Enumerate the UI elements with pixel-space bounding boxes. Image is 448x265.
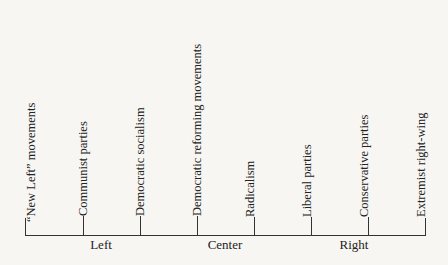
position-label-radicalism: Radicalism xyxy=(244,161,257,217)
position-label-liberal: Liberal parties xyxy=(301,144,314,217)
spectrum-axis-line xyxy=(25,235,425,236)
region-label-right: Right xyxy=(340,238,369,252)
position-label-new-left: “New Left” movements xyxy=(25,103,38,222)
region-label-left: Left xyxy=(90,238,112,252)
tick-democratic-socialism xyxy=(140,216,141,236)
position-label-extremist-right: Extremist right-wing xyxy=(415,113,428,218)
tick-communist xyxy=(83,216,84,236)
political-spectrum-diagram: “New Left” movements Communist parties D… xyxy=(0,0,448,265)
tick-conservative xyxy=(368,217,369,236)
tick-radicalism xyxy=(254,217,255,236)
tick-extremist-right xyxy=(425,218,426,236)
position-label-communist: Communist parties xyxy=(77,121,90,216)
tick-democratic-reforming xyxy=(197,216,198,236)
position-label-democratic-socialism: Democratic socialism xyxy=(134,107,147,216)
tick-liberal xyxy=(311,217,312,236)
region-label-center: Center xyxy=(208,238,243,252)
position-label-democratic-reforming: Democratic reforming movements xyxy=(191,44,204,216)
position-label-conservative: Conservative parties xyxy=(358,115,371,217)
